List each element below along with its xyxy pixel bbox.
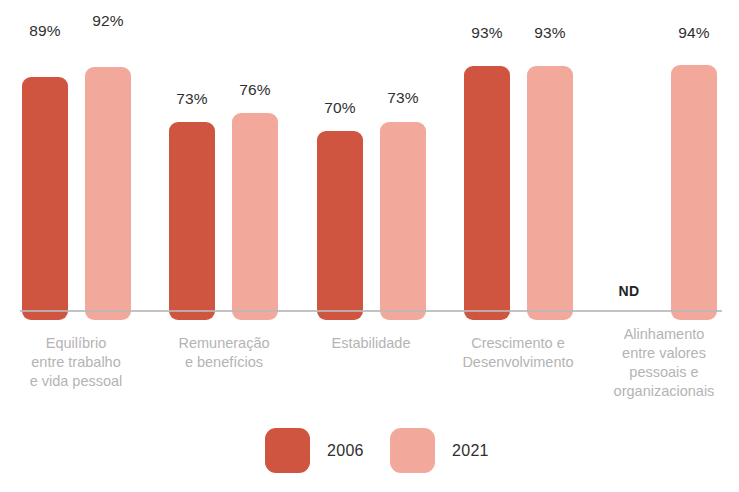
value-label-g5-2021: 94% [678,24,710,42]
bar-2006-crescimento[interactable] [464,66,510,320]
chart-legend: 2006 2021 [0,418,739,488]
value-label-g4-2021: 93% [534,24,566,42]
bar-2006-remuneracao[interactable] [169,122,215,320]
category-label-alinhamento: Alinhamento entre valores pessoais e org… [584,325,739,401]
legend-label-2006: 2006 [327,442,364,460]
category-line: e benefícios [137,353,312,372]
value-label-g5-2006-nd: ND [618,283,639,299]
bar-2021-remuneracao[interactable] [232,113,278,320]
value-label-g1-2021: 92% [92,12,124,30]
plot-area: 89% 92% 73% 76% 70% 73% 93% 93% ND 94% [0,0,739,320]
value-label-g3-2006: 70% [324,99,356,117]
bar-2006-equilibrio[interactable] [22,77,68,320]
grouped-bar-chart: 89% 92% 73% 76% 70% 73% 93% 93% ND 94% E… [0,0,739,492]
bar-2006-estabilidade[interactable] [317,131,363,320]
legend-label-2021: 2021 [452,442,489,460]
value-label-g3-2021: 73% [387,89,419,107]
category-label-crescimento: Crescimento e Desenvolvimento [426,334,611,372]
legend-swatch-icon-2006 [265,428,310,473]
value-label-g2-2006: 73% [176,90,208,108]
bar-2021-crescimento[interactable] [527,66,573,320]
category-line: Desenvolvimento [426,353,611,372]
category-line: organizacionais [584,382,739,401]
bar-2021-alinhamento[interactable] [671,65,717,320]
axis-baseline [20,310,722,312]
category-line: pessoais e [584,363,739,382]
category-line: Crescimento e [426,334,611,353]
value-label-g4-2006: 93% [471,24,503,42]
legend-item-2021[interactable]: 2021 [390,428,489,473]
value-label-g1-2006: 89% [29,22,61,40]
category-line: Alinhamento [584,325,739,344]
legend-item-2006[interactable]: 2006 [265,428,364,473]
bar-2021-estabilidade[interactable] [380,122,426,320]
legend-swatch-icon-2021 [390,428,435,473]
category-line: entre valores [584,344,739,363]
category-line: e vida pessoal [0,372,161,391]
value-label-g2-2021: 76% [239,81,271,99]
bar-2021-equilibrio[interactable] [85,67,131,320]
